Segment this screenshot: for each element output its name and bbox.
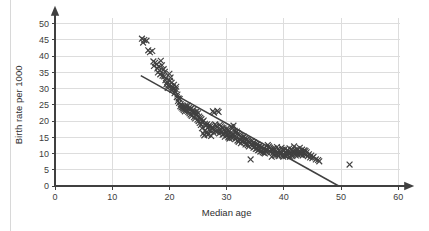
gridlines bbox=[55, 18, 400, 186]
y-tick-label: 5 bbox=[44, 165, 49, 175]
y-tick-label: 25 bbox=[39, 100, 49, 110]
y-tick-label: 0 bbox=[44, 181, 49, 191]
x-tick-label: 40 bbox=[279, 192, 289, 202]
data-point-marker bbox=[248, 156, 254, 162]
x-tick-label: 20 bbox=[164, 192, 174, 202]
x-tick-label: 30 bbox=[222, 192, 232, 202]
chart-figure: 05101520253035404550 0102030405060 Media… bbox=[0, 0, 429, 231]
data-points bbox=[139, 36, 352, 168]
x-tick-label: 60 bbox=[393, 192, 403, 202]
y-tick-label: 40 bbox=[39, 51, 49, 61]
y-tick-labels: 05101520253035404550 bbox=[39, 19, 49, 191]
x-tick-label: 10 bbox=[107, 192, 117, 202]
y-tick-label: 45 bbox=[39, 35, 49, 45]
y-tick-label: 10 bbox=[39, 149, 49, 159]
y-tick-label: 35 bbox=[39, 68, 49, 78]
y-tick-label: 20 bbox=[39, 116, 49, 126]
data-point-marker bbox=[347, 162, 353, 168]
scatter-plot-svg: 05101520253035404550 0102030405060 Media… bbox=[0, 0, 429, 231]
y-tick-label: 50 bbox=[39, 19, 49, 29]
x-tick-labels: 0102030405060 bbox=[52, 192, 403, 202]
y-tick-label: 30 bbox=[39, 84, 49, 94]
y-tick-label: 15 bbox=[39, 133, 49, 143]
x-tick-label: 50 bbox=[336, 192, 346, 202]
x-axis-title: Median age bbox=[202, 207, 252, 218]
x-tick-label: 0 bbox=[52, 192, 57, 202]
axis-lines bbox=[51, 6, 414, 190]
y-axis-title: Birth rate per 1000 bbox=[13, 66, 24, 145]
data-point-marker bbox=[149, 48, 155, 54]
